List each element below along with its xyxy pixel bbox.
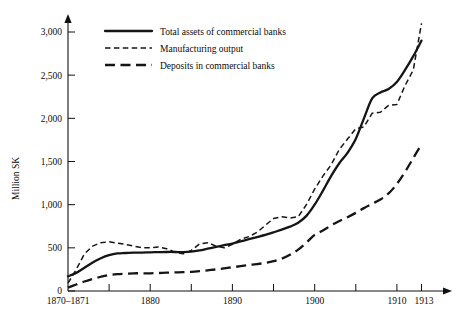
x-tick-label-1900: 1900 (305, 296, 324, 306)
line-chart: 0 500 1,000 1,500 2,000 2,500 3,000 Mill… (0, 0, 462, 324)
y-tick-label-1000: 1,000 (41, 200, 63, 210)
y-tick-label-1500: 1,500 (41, 157, 63, 167)
y-axis-title: Million SK (11, 157, 21, 200)
y-tick-marks (68, 32, 75, 291)
x-axis (68, 287, 452, 294)
legend: Total assets of commercial banks Manufac… (105, 27, 286, 71)
legend-label-manufacturing-output: Manufacturing output (160, 44, 243, 54)
y-tick-label-2000: 2,000 (41, 114, 63, 124)
legend-label-deposits: Deposits in commercial banks (160, 61, 275, 71)
y-axis-arrowhead (64, 14, 71, 23)
y-tick-labels: 0 500 1,000 1,500 2,000 2,500 3,000 (41, 27, 63, 296)
y-tick-label-3000: 3,000 (41, 27, 63, 37)
x-tick-label-1870: 1870–1871 (47, 296, 90, 306)
x-tick-marks (109, 284, 421, 291)
figure-container: 0 500 1,000 1,500 2,000 2,500 3,000 Mill… (0, 0, 462, 324)
x-axis-arrowhead (443, 287, 452, 294)
x-tick-label-1913: 1913 (415, 296, 434, 306)
y-axis (64, 14, 71, 291)
legend-label-total-assets: Total assets of commercial banks (160, 27, 286, 37)
series-line-total-assets (68, 41, 422, 277)
series-line-deposits (68, 144, 422, 287)
x-tick-label-1910: 1910 (387, 296, 406, 306)
x-tick-labels: 1870–1871 1880 1890 1900 1910 1913 (47, 296, 434, 306)
x-tick-label-1880: 1880 (141, 296, 160, 306)
y-tick-label-500: 500 (48, 243, 63, 253)
x-tick-label-1890: 1890 (223, 296, 242, 306)
y-tick-label-2500: 2,500 (41, 71, 63, 81)
